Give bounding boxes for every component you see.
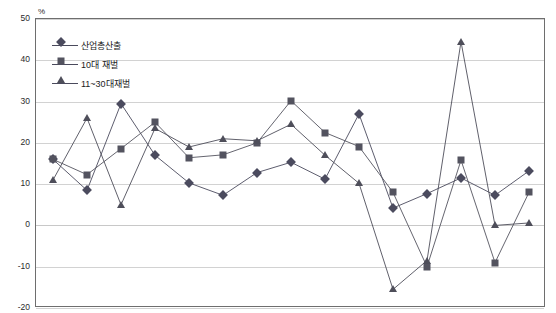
legend-label-2: 11~30대재벌	[78, 77, 130, 90]
y-tick-label--20: -20	[0, 303, 30, 312]
y-tick-label--10: -10	[0, 262, 30, 271]
y-tick-label-20: 20	[0, 138, 30, 147]
legend-item-2[interactable]: 11~30대재벌	[52, 74, 172, 93]
chart-container: % 50403020100-10-20 19881989199019911992…	[0, 0, 556, 313]
y-tick-label-30: 30	[0, 97, 30, 106]
legend-item-1[interactable]: 10대 재벌	[52, 55, 172, 74]
legend-label-1: 10대 재벌	[78, 58, 118, 71]
legend-label-0: 산업총산출	[78, 39, 121, 52]
series-line-1	[53, 101, 529, 267]
y-tick-label-40: 40	[0, 55, 30, 64]
y-axis-unit-label: %	[38, 7, 45, 16]
gridline--20	[36, 308, 544, 309]
legend: 산업총산출 10대 재벌 11~30대재벌	[52, 36, 172, 93]
legend-swatch-triangle-icon	[52, 78, 78, 90]
legend-swatch-diamond-icon	[52, 40, 78, 52]
y-tick-label-50: 50	[0, 14, 30, 23]
y-tick-label-0: 0	[0, 220, 30, 229]
y-tick-label-10: 10	[0, 179, 30, 188]
legend-item-0[interactable]: 산업총산출	[52, 36, 172, 55]
legend-swatch-square-icon	[52, 59, 78, 71]
series-line-0	[53, 104, 529, 208]
